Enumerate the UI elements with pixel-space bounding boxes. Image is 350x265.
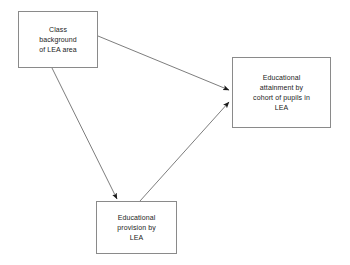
edge-class-background-to-attainment xyxy=(98,36,229,90)
node-label: Educational provision by LEA xyxy=(113,213,160,243)
node-class-background-of-lea-area[interactable]: Class background of LEA area xyxy=(18,11,98,68)
node-educational-attainment-by-cohort[interactable]: Educational attainment by cohort of pupi… xyxy=(232,57,331,128)
edge-class-background-to-provision xyxy=(52,68,117,199)
node-educational-provision-by-lea[interactable]: Educational provision by LEA xyxy=(96,201,177,254)
node-label: Educational attainment by cohort of pupi… xyxy=(249,73,314,113)
diagram-canvas: Class background of LEA area Educational… xyxy=(0,0,350,265)
edge-provision-to-attainment xyxy=(140,102,229,201)
node-label: Class background of LEA area xyxy=(35,25,81,55)
